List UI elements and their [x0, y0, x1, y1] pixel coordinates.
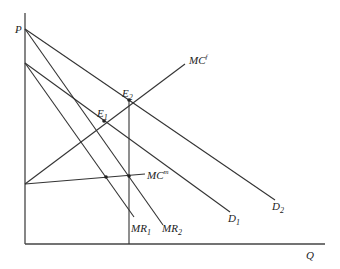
- label-q: Q: [306, 249, 314, 261]
- curve-mr1: [25, 63, 134, 217]
- economics-diagram: P Q E2 E1 MCf MCm MR1 MR2 D1 D2: [0, 0, 340, 269]
- label-e2: E2: [121, 87, 133, 102]
- point-mr2-mcm: [127, 174, 131, 178]
- label-d1: D1: [227, 212, 240, 227]
- label-mr1: MR1: [130, 222, 151, 237]
- curve-d1: [25, 63, 230, 212]
- label-mr2: MR2: [161, 222, 182, 237]
- curve-mcm: [25, 174, 145, 184]
- curve-mr2: [25, 29, 163, 225]
- label-mcf: MCf: [188, 53, 209, 66]
- label-mcm: MCm: [146, 168, 169, 181]
- label-p: P: [14, 23, 22, 35]
- point-mr1-mcm: [104, 175, 108, 179]
- label-e1: E1: [96, 107, 108, 122]
- label-d2: D2: [271, 200, 284, 215]
- curve-mcf: [25, 64, 185, 184]
